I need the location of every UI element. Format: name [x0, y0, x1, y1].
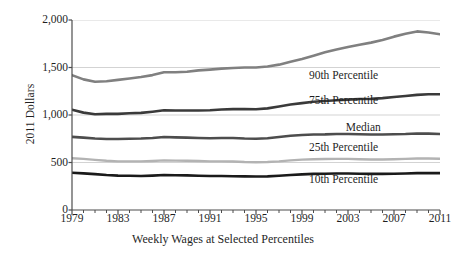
x-tick-label: 1991 [199, 213, 222, 225]
x-tick-label: 2011 [429, 213, 451, 225]
series-line-3 [72, 158, 440, 162]
series-line-0 [72, 31, 440, 81]
series-line-4 [72, 173, 440, 177]
series-label-4: 10th Percentile [309, 174, 378, 186]
x-tick-label: 1995 [245, 213, 268, 225]
series-line-1 [72, 94, 440, 114]
x-axis-tick-labels: 197919831987199119951999200320072011 [0, 213, 446, 231]
plot-svg [72, 20, 440, 210]
series-line-2 [72, 133, 440, 139]
y-tick-label: 2,000 [22, 14, 68, 26]
series-label-1: 75th Percentile [309, 95, 378, 107]
x-axis-title: Weekly Wages at Selected Percentiles [0, 232, 446, 247]
x-tick-label: 1999 [291, 213, 314, 225]
series-label-2: Median [346, 122, 381, 134]
series-label-0: 90th Percentile [309, 70, 378, 82]
y-tick-label: 1,500 [22, 62, 68, 74]
x-tick-label: 1983 [107, 213, 130, 225]
x-tick-label: 1987 [153, 213, 176, 225]
plot-area [72, 20, 440, 210]
x-tick-label: 2003 [337, 213, 360, 225]
x-tick-label: 1979 [61, 213, 84, 225]
series-label-3: 25th Percentile [309, 142, 378, 154]
y-tick-label: 500 [22, 157, 68, 169]
y-tick-label: 1,000 [22, 109, 68, 121]
x-tick-label: 2007 [383, 213, 406, 225]
